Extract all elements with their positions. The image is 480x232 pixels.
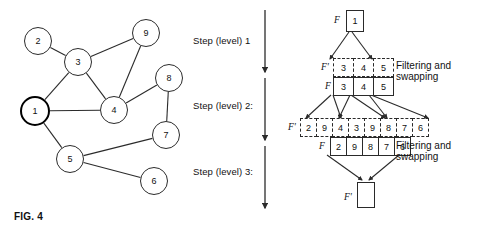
symbol-F-level-0: F [334, 15, 340, 25]
level-1-Fprime-cell-0: 3 [333, 58, 354, 77]
level-2-Fprime-cell-4: 9 [364, 118, 381, 137]
level-2-Fprime-cell-6: 7 [396, 118, 413, 137]
connector-l0-l1-a [330, 32, 349, 59]
level-1-Fprime-cell-1: 4 [353, 58, 374, 77]
level-1-F-cell-0: 3 [333, 77, 354, 96]
filtering-note-line1: Filtering and [396, 60, 451, 71]
level-1-F-cell-1: 4 [353, 77, 374, 96]
connector-l0-l1-b [352, 32, 372, 59]
filtering-note-level-1: Filtering and swapping [396, 60, 451, 82]
filtering-note-line1b: Filtering and [396, 140, 451, 151]
symbol-Fprime-level-1: F' [321, 62, 329, 72]
level-2-Fprime-cell-1: 9 [316, 118, 333, 137]
level-2-Fprime-cell-3: 3 [348, 118, 365, 137]
level-2-Fprime-cell-5: 8 [380, 118, 397, 137]
level-2-F-cell-0: 2 [330, 137, 347, 156]
cell-level-0-0: 1 [346, 10, 364, 32]
level-2-F-cell-2: 8 [362, 137, 379, 156]
level-2-Fprime-cell-7: 6 [412, 118, 429, 137]
level-1-F-cell-2: 5 [373, 77, 394, 96]
level-2-F-cell-1: 9 [346, 137, 363, 156]
figure-caption: FIG. 4 [14, 211, 43, 222]
filtering-note-level-2: Filtering and swapping [396, 140, 451, 162]
level-2-Fprime-cell-2: 4 [332, 118, 349, 137]
level-1-Fprime-cell-2: 5 [373, 58, 394, 77]
connector-l2-l3-b [369, 155, 399, 180]
filtering-note-line2b: swapping [396, 151, 438, 162]
symbol-Fprime-level-2: F' [288, 122, 296, 132]
connector-l1-l2-b [333, 95, 341, 118]
level-2-Fprime-cell-0: 2 [300, 118, 317, 137]
symbol-F-level-1: F [325, 81, 331, 91]
filtering-note-line2: swapping [396, 71, 438, 82]
connector-l1-l2-a [306, 95, 331, 118]
symbol-F-level-2: F [319, 141, 325, 151]
symbol-Fprime-level-3: F' [344, 192, 352, 202]
cell-level-3-0 [357, 182, 375, 208]
figure-4: 239814756 Step (level) 1 Step (level) 2:… [0, 0, 480, 232]
pipeline-connectors-layer [0, 0, 480, 232]
connector-l2-l3-a [327, 155, 362, 180]
connector-l1-l2-c [339, 95, 350, 118]
connector-l1-l2-e [369, 95, 387, 118]
level-2-F-cell-3: 7 [378, 137, 395, 156]
